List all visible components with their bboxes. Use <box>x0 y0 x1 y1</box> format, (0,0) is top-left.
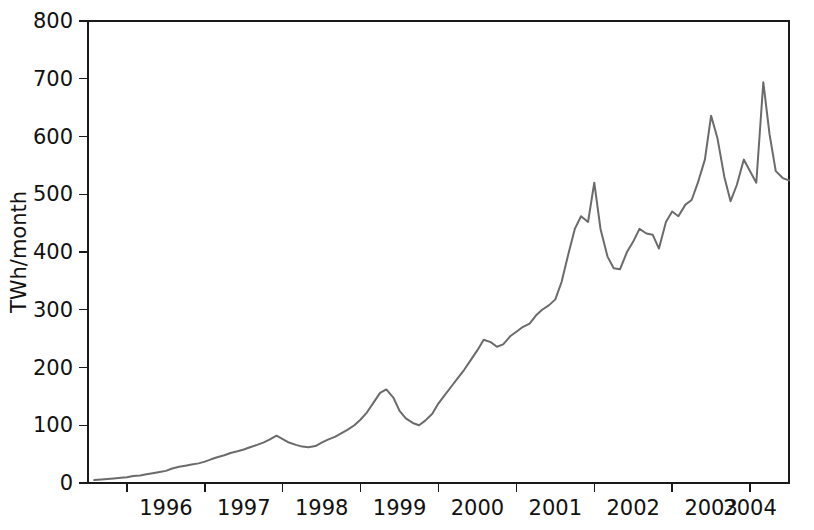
x-axis-tick-label: 2001 <box>529 496 582 520</box>
x-axis-tick-labels: 199619971998199920002001200220032004 <box>139 496 777 520</box>
y-axis-ticks <box>79 21 88 483</box>
x-axis-ticks <box>127 483 750 492</box>
y-axis-tick-label: 500 <box>33 182 73 206</box>
y-axis-tick-label: 800 <box>33 9 73 33</box>
x-axis-tick-label: 2002 <box>606 496 659 520</box>
y-axis-tick-label: 300 <box>33 298 73 322</box>
y-axis-tick-label: 0 <box>60 471 73 495</box>
x-axis-tick-label: 2004 <box>723 496 776 520</box>
series-line-twh-per-month <box>94 82 789 480</box>
y-axis-tick-label: 200 <box>33 356 73 380</box>
y-axis-tick-label: 400 <box>33 240 73 264</box>
axes: 0100200300400500600700800 19961997199819… <box>33 9 789 520</box>
y-axis-tick-label: 100 <box>33 413 73 437</box>
x-axis-tick-label: 2000 <box>451 496 504 520</box>
chart-container: 0100200300400500600700800 19961997199819… <box>0 0 814 530</box>
x-axis-tick-label: 1999 <box>373 496 426 520</box>
x-axis-tick-label: 1997 <box>217 496 270 520</box>
axis-frame <box>88 21 789 483</box>
y-axis-tick-label: 600 <box>33 125 73 149</box>
data-series <box>94 82 789 480</box>
line-chart: 0100200300400500600700800 19961997199819… <box>0 0 814 530</box>
y-axis-tick-labels: 0100200300400500600700800 <box>33 9 73 495</box>
y-axis-title: TWh/month <box>7 191 31 314</box>
x-axis-tick-label: 1998 <box>295 496 348 520</box>
y-axis-tick-label: 700 <box>33 67 73 91</box>
x-axis-tick-label: 1996 <box>139 496 192 520</box>
